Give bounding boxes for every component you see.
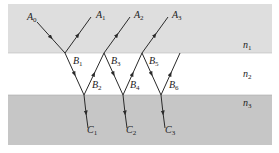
- thin-film-diagram: A0 A1 A2 A3 B1 B3 B5 B2 B4 B6 C1 C2 C3 n…: [0, 0, 279, 153]
- medium-n2-region: [8, 53, 272, 95]
- medium-n3-region: [8, 95, 272, 145]
